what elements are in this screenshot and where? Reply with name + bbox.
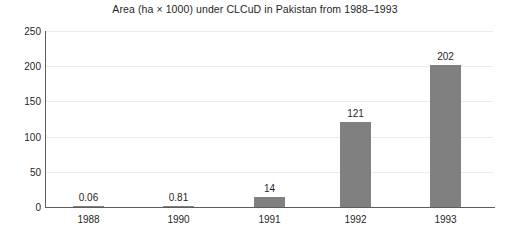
bar-1991[interactable] [254,197,285,207]
x-axis-line [45,207,495,208]
x-axis-tick-labels: 1988 1990 1991 1992 1993 [46,214,493,234]
y-tick-label: 100 [1,131,41,142]
gridline-200 [46,66,493,67]
bar-group-1990[interactable]: 0.81 [163,192,194,207]
y-tick-label: 0 [1,202,41,213]
y-tick-label: 200 [1,61,41,72]
bar-value-label: 0.06 [79,192,98,203]
bar-group-1992[interactable]: 121 [340,108,371,207]
y-tick-label: 250 [1,26,41,37]
gridline-150 [46,101,493,102]
plot-area: 0.06 0.81 14 121 202 [46,31,493,207]
bar-value-label: 121 [347,108,364,119]
gridline-250 [46,31,493,32]
bar-group-1991[interactable]: 14 [254,183,285,207]
bar-1992[interactable] [340,122,371,207]
x-tick-label-1991: 1991 [258,214,280,225]
y-tick-label: 150 [1,96,41,107]
x-tick-label-1992: 1992 [344,214,366,225]
bar-chart: Area (ha × 1000) under CLCuD in Pakistan… [0,0,510,238]
bar-value-label: 14 [264,183,275,194]
bar-value-label: 202 [437,51,454,62]
x-tick-label-1988: 1988 [77,214,99,225]
x-tick-label-1990: 1990 [167,214,189,225]
y-axis-line [45,31,46,208]
y-axis-tick-labels: 0 50 100 150 200 250 [0,31,41,207]
gridline-50 [46,172,493,173]
bar-1993[interactable] [430,65,461,207]
gridline-100 [46,137,493,138]
x-tick-label-1993: 1993 [434,214,456,225]
bar-group-1993[interactable]: 202 [430,51,461,207]
y-tick-label: 50 [1,166,41,177]
bar-value-label: 0.81 [169,192,188,203]
bar-group-1988[interactable]: 0.06 [73,192,104,207]
chart-title: Area (ha × 1000) under CLCuD in Pakistan… [0,3,510,15]
